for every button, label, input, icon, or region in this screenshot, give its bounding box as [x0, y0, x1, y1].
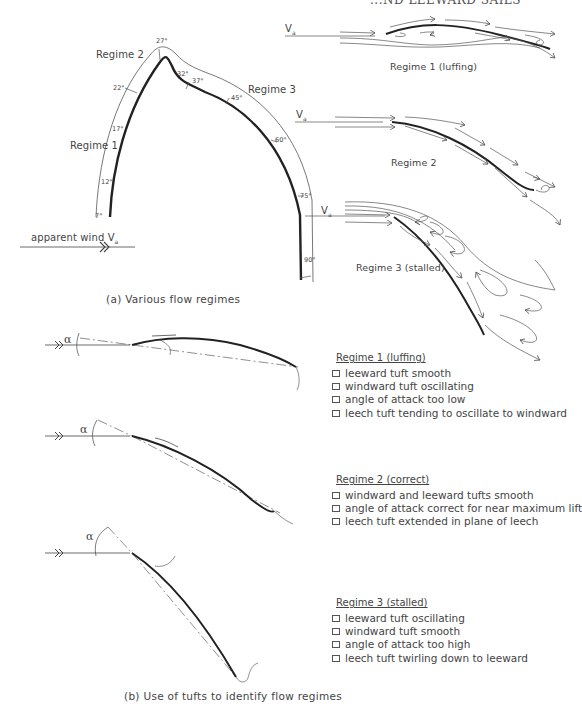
flow-1-label: Regime 1 (luffing) [390, 61, 477, 72]
angle-12: 12° [101, 178, 113, 186]
tuft-diagram-regime-3 [45, 527, 258, 682]
list-item: windward tuft smooth [332, 625, 528, 638]
flow-3-label: Regime 3 (stalled) [356, 262, 445, 273]
angle-75: 75° [300, 192, 312, 200]
flow-regime-2-sketch [295, 117, 560, 225]
angle-37: 37° [192, 77, 204, 85]
flow-regime-1-sketch [285, 19, 555, 58]
flow-regime-3-sketch [305, 202, 555, 360]
list-item: leech tuft tending to oscillate to windw… [332, 407, 567, 420]
regime-2-heading: Regime 2 (correct) [336, 474, 429, 485]
angle-60: 60° [275, 136, 287, 144]
regime-2-label: Regime 2 [96, 49, 144, 60]
list-item: leeward tuft smooth [332, 367, 567, 380]
list-item: angle of attack too low [332, 393, 567, 406]
list-item: windward tuft oscillating [332, 380, 567, 393]
regime-3-label: Regime 3 [248, 84, 296, 95]
angle-17: 17° [112, 125, 124, 133]
regime-1-heading: Regime 1 (luffing) [336, 352, 426, 363]
alpha-symbol-regime-2: α [80, 423, 87, 436]
regime-1-label: Regime 1 [70, 140, 118, 151]
list-item: leech tuft twirling down to leeward [332, 652, 528, 665]
caption-b: (b) Use of tufts to identify flow regime… [124, 690, 342, 702]
regime-2-checklist: windward and leeward tufts smooth angle … [332, 489, 582, 529]
angle-45: 45° [231, 94, 243, 102]
apparent-wind-label: apparent wind Va [31, 232, 118, 245]
tuft-diagram-regime-1 [45, 333, 299, 390]
list-item: leech tuft extended in plane of leech [332, 515, 582, 528]
regime-3-checklist: leeward tuft oscillating windward tuft s… [332, 612, 528, 665]
alpha-symbol-regime-3: α [86, 530, 93, 543]
list-item: leeward tuft oscillating [332, 612, 528, 625]
regime-1-checklist: leeward tuft smooth windward tuft oscill… [332, 367, 567, 420]
list-item: angle of attack too high [332, 638, 528, 651]
angle-7: 7° [95, 212, 102, 220]
list-item: windward and leeward tufts smooth [332, 489, 582, 502]
regime-3-heading: Regime 3 (stalled) [336, 597, 428, 608]
angle-22: 22° [113, 84, 125, 92]
flow-1-wind-label: Va [285, 23, 296, 36]
flow-3-wind-label: Va [321, 205, 332, 218]
caption-a: (a) Various flow regimes [106, 293, 240, 305]
flow-2-label: Regime 2 [391, 157, 437, 168]
flow-2-wind-label: Va [296, 109, 307, 122]
angle-27: 27° [156, 37, 168, 45]
alpha-symbol-regime-1: α [64, 333, 71, 346]
list-item: angle of attack correct for near maximum… [332, 502, 582, 515]
angle-90: 90° [304, 256, 316, 264]
angle-32: 32° [177, 70, 189, 78]
